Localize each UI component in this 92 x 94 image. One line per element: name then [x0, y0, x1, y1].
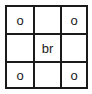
tic-tac-grid: o o br o o	[5, 5, 88, 89]
grid-cell-0-0: o	[7, 7, 35, 35]
grid-cell-2-1	[35, 63, 62, 87]
grid-cell-2-0: o	[7, 63, 35, 87]
grid-cell-1-2	[62, 35, 86, 63]
grid-cell-1-0	[7, 35, 35, 63]
grid-cell-0-1	[35, 7, 62, 35]
grid-cell-1-1: br	[35, 35, 62, 63]
grid-cell-0-2: o	[62, 7, 86, 35]
grid-cell-2-2: o	[62, 63, 86, 87]
